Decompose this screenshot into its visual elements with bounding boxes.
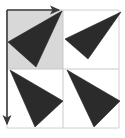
tiling-diagram xyxy=(0,0,125,138)
figure-canvas xyxy=(0,0,125,138)
